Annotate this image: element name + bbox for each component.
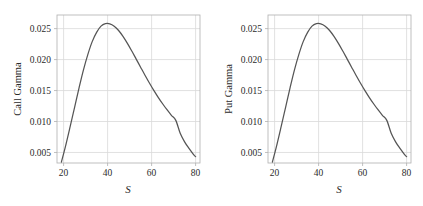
x-tick-label: 60 <box>147 168 157 178</box>
put-gamma-curve <box>272 23 406 162</box>
put-y-tick-labels: 0.0050.0100.0150.0200.025 <box>241 24 268 158</box>
call-gamma-plot: 0.0050.0100.0150.0200.025 20406080 Call … <box>0 0 211 206</box>
y-tick-label: 0.015 <box>30 86 52 96</box>
y-tick-label: 0.015 <box>241 86 263 96</box>
call-gamma-curve <box>61 23 195 162</box>
x-tick-label: 80 <box>191 168 201 178</box>
put-x-tick-labels: 20406080 <box>270 163 412 178</box>
x-tick-label: 80 <box>402 168 412 178</box>
y-tick-label: 0.005 <box>30 148 52 158</box>
put-gamma-panel: 0.0050.0100.0150.0200.025 20406080 Put G… <box>211 0 422 206</box>
x-tick-label: 40 <box>103 168 113 178</box>
put-gamma-plot: 0.0050.0100.0150.0200.025 20406080 Put G… <box>211 0 422 206</box>
y-tick-label: 0.020 <box>241 55 263 65</box>
y-tick-label: 0.025 <box>30 24 52 34</box>
y-tick-label: 0.005 <box>241 148 263 158</box>
call-x-axis-label: S <box>125 183 131 195</box>
x-tick-label: 40 <box>314 168 324 178</box>
call-y-tick-labels: 0.0050.0100.0150.0200.025 <box>30 24 57 158</box>
call-x-tick-labels: 20406080 <box>59 163 201 178</box>
x-tick-label: 60 <box>358 168 368 178</box>
y-tick-label: 0.010 <box>241 117 263 127</box>
call-gamma-panel: 0.0050.0100.0150.0200.025 20406080 Call … <box>0 0 211 206</box>
x-tick-label: 20 <box>59 168 69 178</box>
x-tick-label: 20 <box>270 168 280 178</box>
put-y-axis-label: Put Gamma <box>223 64 234 114</box>
call-y-axis-label: Call Gamma <box>12 62 23 116</box>
put-x-axis-label: S <box>336 183 342 195</box>
gamma-figure: 0.0050.0100.0150.0200.025 20406080 Call … <box>0 0 423 206</box>
y-tick-label: 0.010 <box>30 117 52 127</box>
y-tick-label: 0.020 <box>30 55 52 65</box>
y-tick-label: 0.025 <box>241 24 263 34</box>
